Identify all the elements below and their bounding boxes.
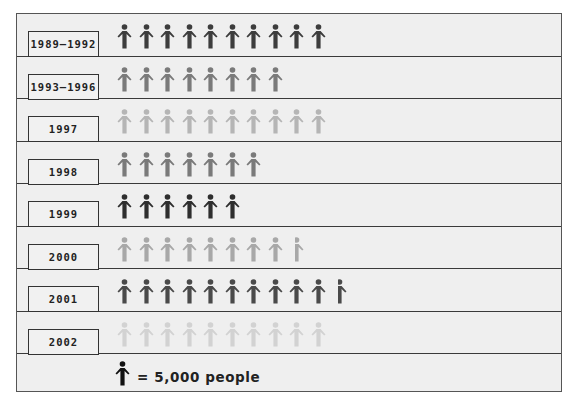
person-icon — [308, 109, 330, 134]
person-icon — [179, 109, 201, 134]
icon-row — [114, 109, 329, 134]
person-icon — [136, 279, 158, 304]
chart-row: 2001 — [17, 269, 561, 312]
legend: = 5,000 people — [114, 361, 260, 389]
person-icon — [222, 67, 244, 92]
person-icon — [200, 322, 222, 347]
person-icon — [136, 194, 158, 219]
person-icon — [136, 152, 158, 177]
person-icon — [200, 24, 222, 49]
chart-row: 1999 — [17, 184, 561, 227]
person-icon — [243, 237, 265, 262]
person-icon — [136, 24, 158, 49]
person-icon — [200, 109, 222, 134]
person-icon — [157, 322, 179, 347]
person-icon — [286, 24, 308, 49]
person-icon — [265, 322, 287, 347]
icon-row — [114, 67, 286, 92]
person-icon — [179, 237, 201, 262]
person-icon — [114, 109, 136, 134]
person-icon — [179, 24, 201, 49]
person-icon — [243, 152, 265, 177]
person-icon — [114, 360, 131, 391]
person-icon — [157, 24, 179, 49]
person-icon — [308, 24, 330, 49]
icon-row — [114, 194, 243, 219]
person-icon — [136, 109, 158, 134]
person-icon — [157, 279, 179, 304]
person-icon — [114, 152, 136, 177]
person-icon — [157, 194, 179, 219]
person-icon — [200, 279, 222, 304]
person-icon — [136, 237, 158, 262]
person-icon — [286, 322, 308, 347]
chart-row: 1998 — [17, 142, 561, 185]
row-label: 1999 — [28, 201, 99, 227]
person-icon — [157, 152, 179, 177]
person-icon — [286, 279, 308, 304]
person-icon — [286, 237, 308, 262]
person-icon — [179, 67, 201, 92]
pictograph-chart: 1989–1992 1993–1996 — [16, 13, 562, 392]
person-icon — [157, 67, 179, 92]
person-icon — [114, 194, 136, 219]
person-icon — [243, 67, 265, 92]
person-icon — [222, 237, 244, 262]
person-icon — [136, 322, 158, 347]
icon-row — [114, 279, 351, 304]
person-icon — [243, 109, 265, 134]
person-icon — [222, 109, 244, 134]
person-icon — [286, 109, 308, 134]
person-icon — [114, 237, 136, 262]
person-icon — [265, 109, 287, 134]
person-icon — [157, 109, 179, 134]
chart-row: 2002 — [17, 312, 561, 355]
person-icon — [222, 279, 244, 304]
row-label: 1993–1996 — [28, 74, 99, 100]
person-icon — [114, 67, 136, 92]
person-icon — [222, 24, 244, 49]
person-icon — [179, 322, 201, 347]
person-icon — [114, 24, 136, 49]
icon-row — [114, 237, 308, 262]
icon-row — [114, 152, 265, 177]
chart-row: 1993–1996 — [17, 57, 561, 100]
row-label: 1998 — [28, 159, 99, 185]
chart-row: 1997 — [17, 99, 561, 142]
person-icon — [222, 194, 244, 219]
row-label: 1997 — [28, 116, 99, 142]
chart-row: 2000 — [17, 227, 561, 270]
person-icon — [179, 194, 201, 219]
row-label: 1989–1992 — [28, 31, 99, 57]
chart-row: 1989–1992 — [17, 14, 561, 57]
person-icon — [243, 322, 265, 347]
icon-row — [114, 24, 329, 49]
person-icon — [265, 279, 287, 304]
person-icon — [243, 279, 265, 304]
person-icon — [243, 24, 265, 49]
row-label: 2001 — [28, 286, 99, 312]
person-icon — [200, 194, 222, 219]
person-icon — [265, 67, 287, 92]
person-icon — [114, 279, 136, 304]
person-icon — [329, 279, 351, 304]
person-icon — [200, 152, 222, 177]
person-icon — [200, 237, 222, 262]
person-icon — [200, 67, 222, 92]
row-label: 2002 — [28, 329, 99, 355]
person-icon — [179, 279, 201, 304]
row-label: 2000 — [28, 244, 99, 270]
legend-text: = 5,000 people — [137, 369, 260, 385]
person-icon — [114, 322, 136, 347]
person-icon — [308, 279, 330, 304]
person-icon — [222, 152, 244, 177]
person-icon — [265, 24, 287, 49]
icon-row — [114, 322, 329, 347]
person-icon — [265, 237, 287, 262]
person-icon — [136, 67, 158, 92]
person-icon — [157, 237, 179, 262]
person-icon — [222, 322, 244, 347]
person-icon — [179, 152, 201, 177]
person-icon — [308, 322, 330, 347]
